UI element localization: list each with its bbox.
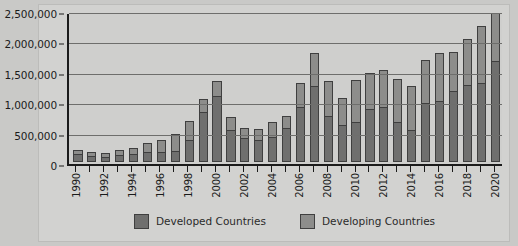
bar-segment-developed[interactable] [393, 122, 402, 162]
bar-column[interactable] [182, 14, 196, 162]
bar-stack[interactable] [324, 81, 333, 162]
bar-segment-developing[interactable] [338, 98, 347, 125]
bar-column[interactable] [307, 14, 321, 162]
bar-segment-developing[interactable] [199, 99, 208, 112]
legend-item[interactable]: Developing Countries [300, 214, 435, 229]
bar-stack[interactable] [365, 73, 374, 162]
bar-stack[interactable] [240, 128, 249, 162]
bar-column[interactable] [321, 14, 335, 162]
bar-segment-developing[interactable] [143, 143, 152, 152]
bar-stack[interactable] [407, 86, 416, 162]
bar-stack[interactable] [87, 152, 96, 162]
bar-column[interactable] [377, 14, 391, 162]
bar-column[interactable] [71, 14, 85, 162]
bar-segment-developing[interactable] [129, 148, 138, 155]
legend-item[interactable]: Developed Countries [134, 214, 266, 229]
bar-stack[interactable] [491, 13, 500, 162]
bar-column[interactable] [488, 14, 502, 162]
bar-stack[interactable] [463, 39, 472, 162]
bar-segment-developed[interactable] [171, 151, 180, 162]
bar-column[interactable] [294, 14, 308, 162]
bar-segment-developing[interactable] [407, 86, 416, 130]
bar-segment-developing[interactable] [351, 80, 360, 122]
bar-stack[interactable] [268, 122, 277, 162]
bar-segment-developing[interactable] [435, 53, 444, 100]
bar-segment-developing[interactable] [282, 116, 291, 128]
bar-column[interactable] [85, 14, 99, 162]
bar-stack[interactable] [212, 81, 221, 162]
bar-column[interactable] [446, 14, 460, 162]
bar-column[interactable] [419, 14, 433, 162]
bar-stack[interactable] [171, 134, 180, 162]
bar-stack[interactable] [199, 99, 208, 162]
bar-column[interactable] [433, 14, 447, 162]
bar-column[interactable] [363, 14, 377, 162]
bar-stack[interactable] [449, 52, 458, 162]
bar-column[interactable] [405, 14, 419, 162]
bar-stack[interactable] [143, 143, 152, 162]
bar-column[interactable] [141, 14, 155, 162]
bar-stack[interactable] [338, 98, 347, 162]
bar-column[interactable] [99, 14, 113, 162]
bar-column[interactable] [196, 14, 210, 162]
bar-segment-developed[interactable] [143, 152, 152, 162]
bar-stack[interactable] [101, 153, 110, 162]
bar-column[interactable] [335, 14, 349, 162]
bar-segment-developing[interactable] [463, 39, 472, 85]
bar-segment-developed[interactable] [73, 154, 82, 162]
bar-segment-developed[interactable] [338, 125, 347, 162]
bar-column[interactable] [154, 14, 168, 162]
bar-column[interactable] [113, 14, 127, 162]
bar-segment-developing[interactable] [212, 81, 221, 96]
bar-segment-developing[interactable] [185, 121, 194, 140]
bar-segment-developed[interactable] [421, 103, 430, 162]
bar-segment-developing[interactable] [324, 81, 333, 116]
bar-column[interactable] [280, 14, 294, 162]
bar-segment-developing[interactable] [226, 117, 235, 130]
bar-segment-developed[interactable] [491, 61, 500, 162]
bar-column[interactable] [349, 14, 363, 162]
bar-column[interactable] [474, 14, 488, 162]
bar-segment-developed[interactable] [254, 140, 263, 162]
bar-stack[interactable] [157, 140, 166, 162]
bar-stack[interactable] [477, 26, 486, 162]
bar-stack[interactable] [129, 148, 138, 162]
bar-stack[interactable] [296, 83, 305, 162]
bar-column[interactable] [210, 14, 224, 162]
bar-segment-developing[interactable] [393, 79, 402, 122]
bar-column[interactable] [460, 14, 474, 162]
bar-column[interactable] [127, 14, 141, 162]
bar-stack[interactable] [351, 80, 360, 162]
bar-segment-developed[interactable] [212, 96, 221, 162]
bar-stack[interactable] [379, 70, 388, 162]
bar-column[interactable] [391, 14, 405, 162]
bar-column[interactable] [252, 14, 266, 162]
bar-segment-developing[interactable] [449, 52, 458, 91]
bar-segment-developed[interactable] [115, 155, 124, 162]
bar-segment-developed[interactable] [477, 83, 486, 162]
bar-segment-developed[interactable] [268, 137, 277, 162]
bar-stack[interactable] [226, 117, 235, 162]
bar-stack[interactable] [310, 53, 319, 162]
bar-stack[interactable] [73, 150, 82, 162]
bar-segment-developed[interactable] [324, 116, 333, 162]
bar-segment-developing[interactable] [171, 134, 180, 151]
bar-segment-developed[interactable] [185, 140, 194, 162]
bar-segment-developed[interactable] [240, 138, 249, 162]
bar-stack[interactable] [435, 53, 444, 162]
bar-stack[interactable] [185, 121, 194, 162]
bar-stack[interactable] [421, 60, 430, 162]
bar-segment-developing[interactable] [310, 53, 319, 85]
bar-column[interactable] [266, 14, 280, 162]
bar-column[interactable] [238, 14, 252, 162]
bar-stack[interactable] [393, 79, 402, 162]
bar-column[interactable] [168, 14, 182, 162]
bar-segment-developed[interactable] [282, 128, 291, 162]
bar-segment-developed[interactable] [449, 91, 458, 162]
bar-segment-developing[interactable] [491, 13, 500, 61]
bar-segment-developed[interactable] [157, 152, 166, 162]
bar-segment-developing[interactable] [157, 140, 166, 152]
bar-segment-developed[interactable] [199, 112, 208, 162]
bar-column[interactable] [224, 14, 238, 162]
bar-segment-developing[interactable] [379, 70, 388, 107]
